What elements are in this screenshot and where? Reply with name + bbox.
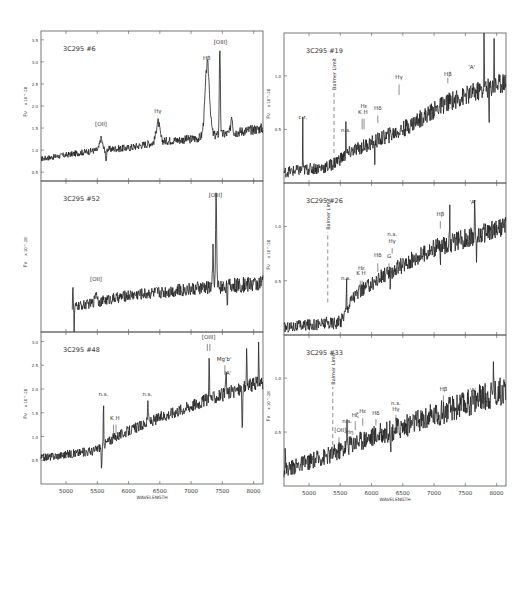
spectrum-line [72, 193, 263, 332]
line-annotation: Hδ [372, 410, 380, 416]
x-tick-label: 5500 [333, 490, 347, 496]
line-annotation: 'A' [225, 370, 232, 376]
y-tick-label: 0.5 [32, 170, 39, 175]
panel-title: 3C295 #52 [63, 195, 100, 203]
y-tick-label: 0.5 [275, 430, 282, 435]
y-tick-label: 0.5 [275, 279, 282, 284]
y-tick-label: 3.0 [32, 340, 39, 345]
balmer-limit-label: Balmer Limit [325, 198, 331, 230]
y-tick-label: 0.5 [275, 127, 282, 132]
y-tick-label: 1.0 [275, 74, 282, 79]
panel-frame [41, 31, 263, 181]
y-tick-label: 2.5 [32, 363, 39, 368]
line-annotation: Hδ [374, 252, 382, 258]
line-annotation: Hγ [392, 406, 400, 413]
line-annotation: G [387, 253, 391, 259]
balmer-limit-label: Balmer Limit [331, 58, 337, 90]
x-tick-label: 5500 [90, 488, 104, 494]
line-annotation: n.s. [387, 231, 397, 237]
y-axis-unit: x 10^-28 [266, 391, 271, 410]
x-tick-label: 5000 [302, 490, 316, 496]
spectrum-panel: 0.51.01.52.02.53.03.5Fνx 10^-283C295 #6[… [22, 31, 263, 181]
line-annotation: Hδ [374, 105, 382, 111]
spectrum-panel: 5000550060006500700075008000WAVELENGTH0.… [265, 335, 506, 502]
y-axis-unit: x 10^-28 [266, 239, 271, 258]
spectrum-line [284, 362, 506, 478]
panel-frame [41, 181, 263, 332]
y-tick-label: 1.0 [32, 148, 39, 153]
y-axis-unit: x 10^-28 [266, 88, 271, 107]
x-tick-label: 7000 [184, 488, 198, 494]
line-annotation: n.s. [341, 127, 351, 133]
spectrum-line [41, 51, 263, 161]
y-axis-label: Fν [22, 111, 28, 117]
line-annotation: Hγ [395, 74, 403, 81]
y-axis-label: Fν [265, 113, 271, 119]
x-tick-label: 7500 [215, 488, 229, 494]
line-annotation: [OIII] [214, 39, 228, 45]
line-annotation: Hβ [444, 71, 452, 78]
y-tick-label: 0.5 [32, 458, 39, 463]
x-tick-label: 6000 [122, 488, 136, 494]
balmer-limit-label: Balmer Limit [330, 353, 336, 385]
spectrum-line [284, 200, 506, 332]
line-annotation: n.s. [341, 275, 351, 281]
y-axis-unit: x 10^-28 [23, 86, 28, 105]
y-tick-label: 1.0 [275, 224, 282, 229]
y-axis-unit: x 10^-28 [23, 237, 28, 256]
line-annotation: Hζ [352, 412, 359, 419]
line-annotation: Hβ [437, 211, 445, 218]
y-tick-label: 1.5 [32, 126, 39, 131]
y-tick-label: 2.5 [32, 82, 39, 87]
line-annotation: Hε [360, 103, 367, 109]
x-tick-label: 7500 [458, 490, 472, 496]
spectrum-panel: 5000550060006500700075008000WAVELENGTH0.… [22, 332, 263, 500]
x-tick-label: 6500 [153, 488, 167, 494]
y-axis-unit: x 10^-28 [23, 388, 28, 407]
panel-title: 3C295 #33 [306, 349, 343, 357]
spectrum-panel: 0.51.0Fνx 10^-283C295 #26Balmer Limitn.s… [265, 183, 506, 335]
panel-title: 3C295 #6 [63, 45, 96, 53]
x-tick-label: 6000 [365, 490, 379, 496]
line-annotation: 'A' [469, 199, 476, 205]
line-annotation: Hβ [203, 55, 211, 62]
line-annotation: 'A' [469, 387, 476, 393]
y-tick-label: 2.0 [32, 104, 39, 109]
y-tick-label: 3.0 [32, 60, 39, 65]
panel-title: 3C295 #48 [63, 346, 100, 354]
spectra-figure: 0.51.01.52.02.53.03.5Fνx 10^-283C295 #6[… [0, 0, 522, 593]
line-annotation: Hε [359, 408, 366, 414]
x-axis-label: WAVELENGTH [379, 497, 410, 502]
x-tick-label: 8000 [490, 490, 504, 496]
spectrum-panel: Fνx 10^-283C295 #52[OII][OIII] [22, 181, 263, 332]
y-axis-label: Fν [265, 415, 271, 421]
line-annotation: [OIII] [209, 192, 223, 198]
y-tick-label: 1.0 [275, 376, 282, 381]
y-tick-label: 2.0 [32, 387, 39, 392]
panel-title: 3C295 #19 [306, 47, 343, 55]
y-axis-label: Fν [265, 264, 271, 270]
x-axis-label: WAVELENGTH [136, 495, 167, 500]
y-axis-label: Fν [22, 261, 28, 267]
line-annotation: K H [110, 415, 120, 421]
line-annotation: K H [358, 109, 368, 115]
x-tick-label: 5000 [59, 488, 73, 494]
spectrum-panel: 0.51.0Fνx 10^-283C295 #19Balmer Limitc.r… [265, 33, 506, 183]
panel-frame [284, 33, 506, 183]
y-tick-label: 3.5 [32, 38, 39, 43]
panel-frame [284, 183, 506, 335]
line-annotation: c.r. [299, 114, 308, 120]
y-axis-label: Fν [22, 413, 28, 419]
x-tick-label: 7000 [427, 490, 441, 496]
line-annotation: Hη [346, 429, 354, 436]
line-annotation: [OII] [90, 276, 102, 282]
line-annotation: [OIII] [202, 334, 216, 340]
line-annotation: [OII] [95, 121, 107, 127]
line-annotation: n.s. [142, 391, 152, 397]
line-annotation: Mg'b' [217, 356, 232, 363]
line-annotation: K H [356, 270, 366, 276]
x-tick-label: 6500 [396, 490, 410, 496]
line-annotation: Hγ [388, 238, 396, 245]
y-tick-label: 1.5 [32, 411, 39, 416]
line-annotation: [OII] [334, 427, 346, 433]
